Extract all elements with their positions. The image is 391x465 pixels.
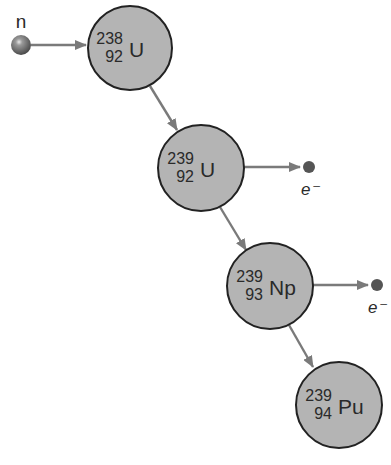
mass-number: 238 (96, 30, 123, 47)
nucleus-u238: 23892U (88, 6, 172, 90)
electron-icon (371, 279, 383, 291)
arrow-u239-to-np239 (220, 207, 246, 250)
electron-2: e⁻ (368, 279, 388, 317)
electron-label: e⁻ (368, 298, 388, 317)
element-symbol: Np (269, 276, 296, 299)
electron-label: e⁻ (301, 180, 321, 199)
arrow-np239-to-pu239 (289, 325, 313, 367)
arrow-u238-to-u239 (150, 86, 177, 130)
nuclei-layer: 23892U23992U23993Np23994Pu (88, 6, 382, 448)
electron-icon (303, 161, 315, 173)
element-symbol: Pu (338, 395, 364, 418)
element-symbol: U (200, 158, 215, 181)
element-symbol: U (129, 38, 144, 61)
mass-number: 239 (167, 150, 194, 167)
atomic-number: 92 (105, 48, 123, 65)
atomic-number: 92 (176, 168, 194, 185)
nucleus-np239: 23993Np (227, 243, 313, 329)
decay-chain-diagram: 23892U23992U23993Np23994Pu ne⁻e⁻ (0, 0, 391, 465)
neutron-icon (11, 35, 31, 55)
electron-1: e⁻ (301, 161, 321, 199)
diagram-canvas: 23892U23992U23993Np23994Pu ne⁻e⁻ (0, 0, 391, 465)
nucleus-u239: 23992U (158, 125, 244, 211)
mass-number: 239 (305, 387, 332, 404)
neutron: n (11, 11, 31, 55)
neutron-label: n (16, 11, 27, 32)
atomic-number: 94 (314, 405, 332, 422)
mass-number: 239 (236, 268, 263, 285)
atomic-number: 93 (245, 286, 263, 303)
nucleus-pu239: 23994Pu (296, 362, 382, 448)
